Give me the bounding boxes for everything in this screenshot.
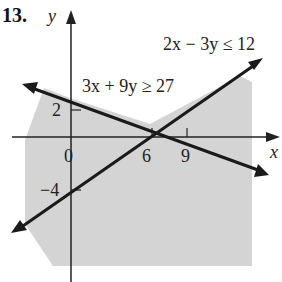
graph-figure: 13. y x 0 2 −4 6 9 3x + 9y ≥ 27 2x − 3y … <box>0 0 282 282</box>
arrowhead-icon <box>22 82 38 94</box>
y-tick-label-2: 2 <box>52 100 61 120</box>
x-axis-arrow-icon <box>266 132 280 142</box>
x-tick-label-6: 6 <box>142 146 151 166</box>
inequality-label-1: 3x + 9y ≥ 27 <box>82 76 174 96</box>
x-tick-label-9: 9 <box>181 146 190 166</box>
x-axis-label: x <box>269 142 278 162</box>
arrowhead-icon <box>254 164 269 177</box>
y-axis-arrow-icon <box>66 10 76 24</box>
problem-number: 13. <box>2 4 27 26</box>
inequality-label-2: 2x − 3y ≤ 12 <box>163 34 255 54</box>
graph-canvas: 13. y x 0 2 −4 6 9 3x + 9y ≥ 27 2x − 3y … <box>0 0 282 282</box>
y-axis-label: y <box>46 6 56 26</box>
y-tick-label-neg4: −4 <box>40 180 59 200</box>
origin-label: 0 <box>64 146 73 166</box>
